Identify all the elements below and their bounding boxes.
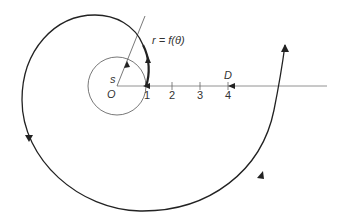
arrowheads bbox=[25, 44, 289, 179]
spiral-inner-segment bbox=[143, 45, 149, 86]
curve-equation-label: r = f(θ) bbox=[152, 34, 185, 46]
tick-label-4: 4 bbox=[225, 89, 231, 101]
radial-line bbox=[117, 16, 145, 86]
destination-label: D bbox=[224, 69, 232, 81]
arrow-icon bbox=[281, 44, 289, 52]
arrow-icon bbox=[124, 61, 130, 68]
arrow-icon bbox=[257, 171, 264, 179]
arrow-icon bbox=[145, 56, 151, 63]
origin-label: O bbox=[107, 88, 116, 100]
spiral-diagram: r = f(θ) O s D 1 2 3 4 bbox=[0, 0, 341, 219]
tick-label-3: 3 bbox=[197, 89, 203, 101]
start-point-label: s bbox=[110, 73, 116, 85]
tick-label-2: 2 bbox=[169, 89, 175, 101]
tick-label-1: 1 bbox=[144, 89, 150, 101]
